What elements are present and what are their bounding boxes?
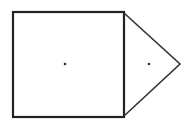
triangle-shape — [124, 13, 180, 116]
triangle-center-dot — [148, 63, 151, 66]
square-shape — [13, 12, 124, 117]
square-center-dot — [64, 63, 67, 66]
diagram-canvas — [0, 0, 195, 129]
